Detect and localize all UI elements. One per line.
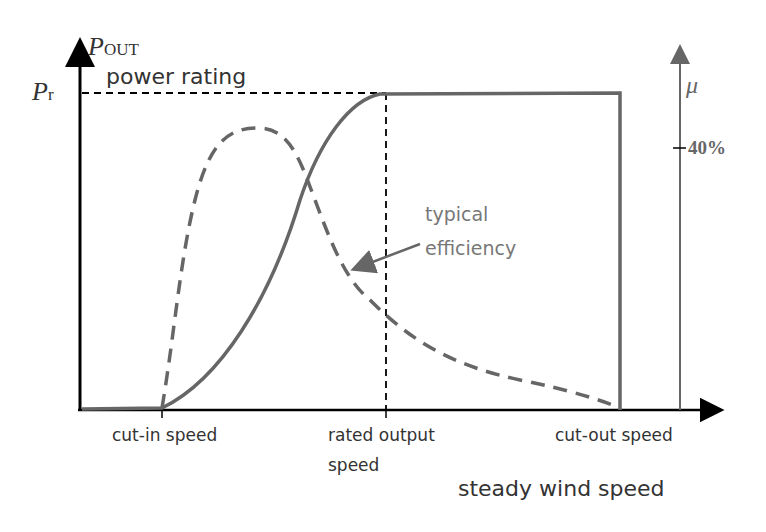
y-axis-label: POUT (88, 32, 139, 62)
cut-out-label: cut-out speed (555, 425, 673, 445)
pct40-label: 40% (688, 137, 726, 159)
efficiency-curve (162, 128, 618, 408)
x-axis-label: steady wind speed (458, 476, 665, 501)
rated-label-2: speed (328, 455, 379, 475)
mu-label: μ (686, 72, 698, 99)
efficiency-label-2: efficiency (425, 237, 516, 259)
cut-in-label: cut-in speed (112, 425, 217, 445)
rated-label-1: rated output (328, 425, 435, 445)
efficiency-arrow (362, 244, 420, 266)
power-rating-label: power rating (106, 64, 246, 89)
power-curve (82, 93, 620, 410)
efficiency-label-1: typical (425, 203, 488, 225)
pr-tick-label: Pr (32, 77, 54, 107)
